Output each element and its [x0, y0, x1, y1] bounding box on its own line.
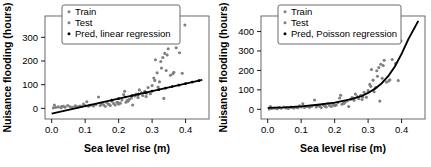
legend-label: Pred, linear regression: [75, 28, 171, 39]
x-tick-label: 0.0: [45, 124, 58, 135]
data-point: [141, 94, 144, 97]
figure-container: 0.00.10.20.30.40100200300Sea level rise …: [0, 0, 431, 167]
y-tick-label: 200: [22, 55, 38, 66]
data-point: [57, 105, 60, 108]
data-point: [360, 98, 363, 101]
data-point: [104, 105, 107, 108]
y-axis-title: Nuisance flooding (hours): [217, 2, 229, 132]
data-point: [301, 102, 304, 105]
data-point: [161, 56, 164, 59]
x-tick-label: 0.3: [145, 124, 158, 135]
data-point: [97, 95, 100, 98]
data-point: [377, 66, 380, 69]
prediction-point: [178, 84, 181, 87]
x-tick-label: 0.3: [361, 124, 374, 135]
data-point: [123, 90, 126, 93]
data-point: [114, 103, 117, 106]
data-point: [162, 97, 165, 100]
data-point: [131, 103, 134, 106]
legend: TrainTestPred, Poisson regression: [278, 5, 401, 44]
prediction-point: [164, 87, 167, 90]
data-point: [339, 94, 342, 97]
prediction-point: [171, 85, 174, 88]
x-tick-label: 0.0: [261, 124, 274, 135]
data-point: [313, 98, 316, 101]
legend-marker: [68, 10, 71, 13]
legend-label: Test: [75, 17, 93, 28]
data-point: [175, 46, 178, 49]
legend-label: Train: [75, 6, 96, 17]
chart-panel-poisson: 0.00.10.20.30.40100200300400Sea level ri…: [216, 0, 431, 167]
data-point: [172, 71, 175, 74]
data-point: [364, 96, 367, 99]
data-point: [157, 85, 160, 88]
legend-label: Train: [291, 6, 312, 17]
x-tick-label: 0.2: [328, 124, 341, 135]
x-tick-label: 0.1: [79, 124, 92, 135]
data-point: [154, 58, 157, 61]
data-point: [160, 67, 163, 70]
data-point: [126, 99, 129, 102]
y-tick-label: 200: [238, 65, 254, 76]
data-point: [54, 106, 57, 109]
y-tick-label: 300: [22, 32, 38, 43]
y-tick-label: 400: [238, 26, 254, 37]
prediction-point: [111, 99, 114, 102]
poisson-regression-chart: 0.00.10.20.30.40100200300400Sea level ri…: [216, 0, 431, 167]
y-axis-title: Nuisance flooding (hours): [1, 2, 13, 132]
data-point: [369, 85, 372, 88]
data-point: [375, 69, 378, 72]
data-point: [381, 64, 384, 67]
legend-marker: [283, 10, 286, 13]
y-tick-label: 100: [238, 84, 254, 95]
data-point: [396, 79, 399, 82]
legend: TrainTestPred, linear regression: [62, 5, 180, 44]
y-tick-label: 300: [238, 45, 254, 56]
prediction-point: [157, 88, 160, 91]
prediction-point: [124, 96, 127, 99]
data-point: [183, 23, 186, 26]
data-point: [151, 84, 154, 87]
data-point: [371, 79, 374, 82]
data-point: [178, 51, 181, 54]
y-tick-label: 100: [22, 79, 38, 90]
data-point: [159, 60, 162, 63]
data-point: [181, 72, 184, 75]
legend-marker: [283, 21, 286, 24]
data-point: [156, 71, 159, 74]
prediction-point: [131, 94, 134, 97]
data-point: [338, 96, 341, 99]
legend-marker: [68, 32, 71, 35]
data-point: [64, 106, 67, 109]
x-tick-label: 0.2: [112, 124, 125, 135]
legend-label: Pred, Poisson regression: [291, 28, 397, 39]
chart-panel-linear: 0.00.10.20.30.40100200300Sea level rise …: [0, 0, 216, 167]
data-point: [378, 100, 381, 103]
prediction-point: [117, 97, 120, 100]
legend-label: Test: [291, 17, 309, 28]
data-point: [362, 91, 365, 94]
x-axis-title: Sea level rise (m): [300, 142, 386, 154]
data-point: [145, 95, 148, 98]
data-point: [369, 68, 372, 71]
prediction-point: [184, 82, 187, 85]
legend-marker: [283, 32, 286, 35]
prediction-point: [198, 79, 201, 82]
data-point: [147, 86, 150, 89]
data-point: [85, 100, 88, 103]
x-axis-title: Sea level rise (m): [84, 142, 170, 154]
data-point: [353, 93, 356, 96]
data-point: [319, 106, 322, 109]
linear-regression-chart: 0.00.10.20.30.40100200300Sea level rise …: [0, 0, 216, 167]
data-point: [116, 101, 119, 104]
data-point: [153, 79, 156, 82]
x-tick-label: 0.4: [394, 124, 407, 135]
prediction-point: [137, 93, 140, 96]
data-point: [165, 69, 168, 72]
y-tick-label: 0: [248, 104, 253, 115]
data-point: [138, 88, 141, 91]
data-point: [122, 93, 125, 96]
data-point: [167, 47, 170, 50]
y-tick-label: 0: [33, 103, 38, 114]
data-point: [388, 78, 391, 81]
